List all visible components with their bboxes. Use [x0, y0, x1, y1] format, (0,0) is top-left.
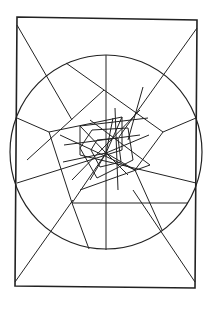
web-line — [104, 90, 163, 132]
web-line — [72, 203, 89, 249]
geometric-line-drawing — [0, 0, 208, 309]
web-line — [66, 63, 104, 90]
web-line — [15, 200, 73, 282]
web-line — [133, 190, 195, 282]
center-point — [104, 151, 107, 154]
web-line — [163, 118, 196, 132]
web-line — [90, 120, 150, 165]
web-line — [17, 25, 72, 120]
web-line — [80, 118, 148, 126]
web-line — [17, 118, 49, 132]
web-line — [128, 87, 143, 140]
web-line — [135, 170, 162, 230]
web-line — [119, 28, 197, 137]
web-line — [49, 132, 72, 203]
drawing-svg — [0, 0, 208, 309]
